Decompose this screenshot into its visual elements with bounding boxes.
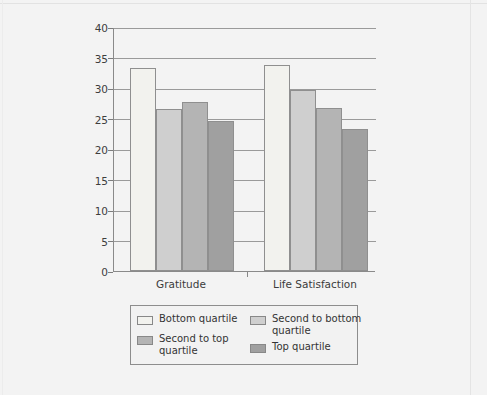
- legend-swatch-icon: [137, 316, 153, 325]
- legend-column-right: Second to bottom quartileTop quartile: [250, 313, 364, 361]
- y-axis-tick-label: 10: [80, 206, 108, 217]
- legend-column-left: Bottom quartileSecond to top quartile: [137, 313, 251, 361]
- legend-swatch-icon: [137, 336, 153, 345]
- legend-label: Bottom quartile: [159, 313, 237, 325]
- y-axis-tick-label: 5: [80, 236, 108, 247]
- bar: [130, 68, 156, 271]
- y-axis-tick-label: 0: [80, 267, 108, 278]
- legend-label: Top quartile: [272, 341, 331, 353]
- bar: [290, 90, 316, 271]
- legend-label: Second to bottom quartile: [272, 313, 364, 337]
- chart-legend: Bottom quartileSecond to top quartile Se…: [130, 305, 358, 365]
- x-axis-tick-mark: [247, 272, 248, 277]
- y-axis-tick-label: 35: [80, 53, 108, 64]
- gridline: [114, 28, 376, 29]
- legend-entry: Bottom quartile: [137, 313, 251, 329]
- y-axis-tick-label: 25: [80, 114, 108, 125]
- chart-page: 0510152025303540 GratitudeLife Satisfact…: [0, 0, 487, 395]
- bar: [264, 65, 290, 271]
- bar: [156, 109, 182, 271]
- y-axis-tick-label: 40: [80, 23, 108, 34]
- bar: [208, 121, 234, 271]
- bar: [316, 108, 342, 271]
- y-axis-tick-label: 20: [80, 145, 108, 156]
- legend-swatch-icon: [250, 316, 266, 325]
- x-axis-category-label: Life Satisfaction: [235, 278, 395, 290]
- legend-entry: Second to top quartile: [137, 333, 251, 357]
- bar: [182, 102, 208, 271]
- plot-area: [113, 28, 375, 272]
- legend-entry: Second to bottom quartile: [250, 313, 364, 337]
- y-axis-tick-label: 15: [80, 175, 108, 186]
- legend-entry: Top quartile: [250, 341, 364, 357]
- legend-label: Second to top quartile: [159, 333, 251, 357]
- legend-swatch-icon: [250, 344, 266, 353]
- bar: [342, 129, 368, 271]
- gridline: [114, 58, 376, 59]
- y-axis-labels: 0510152025303540: [78, 28, 108, 272]
- y-axis-tick-label: 30: [80, 84, 108, 95]
